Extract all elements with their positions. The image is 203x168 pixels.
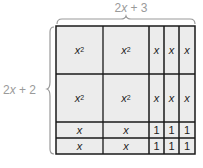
grid-lines	[0, 0, 203, 168]
